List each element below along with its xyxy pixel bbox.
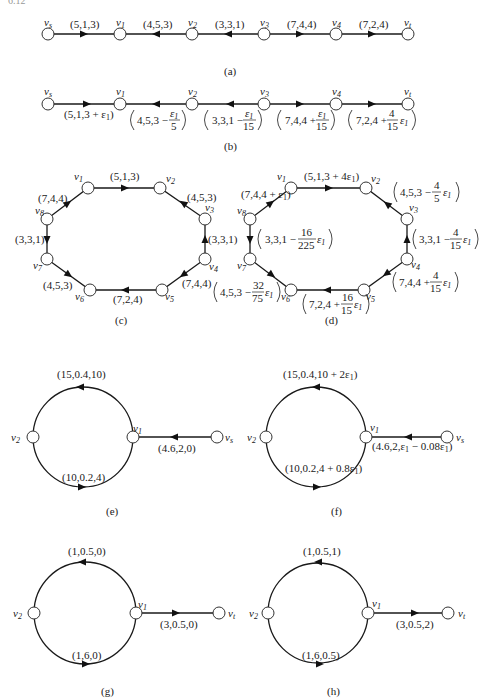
edge-label: (5,1,3) — [70, 18, 100, 31]
label-v1: v1 — [74, 170, 83, 184]
arrow-left-icon — [152, 31, 160, 38]
svg-text:ε1: ε1 — [170, 107, 178, 121]
edge-label: (7,4,4) — [38, 192, 68, 205]
label-v2: v2 — [11, 431, 20, 445]
svg-text:ε1: ε1 — [245, 107, 253, 121]
svg-text:ε1: ε1 — [463, 233, 471, 247]
label-v1: v1 — [133, 422, 142, 436]
arrow-right-icon — [316, 661, 324, 668]
svg-text:32: 32 — [253, 279, 264, 291]
arrow-right-icon — [368, 31, 376, 38]
edge-label: 7,4,4 + 4 15 ε1 — [393, 269, 458, 294]
label-v1: v1 — [116, 16, 125, 30]
label-v8: v8 — [35, 204, 44, 218]
arrow-right-icon — [82, 661, 90, 668]
svg-text:4,5,3 −: 4,5,3 − — [400, 186, 431, 198]
node-v1 — [82, 182, 94, 194]
label-vt: vt — [228, 607, 236, 621]
label-vs: vs — [44, 16, 52, 30]
svg-text:4: 4 — [433, 269, 439, 281]
label-v2: v2 — [13, 607, 22, 621]
arrow-right-icon — [325, 185, 333, 192]
svg-text:3,3,1 −: 3,3,1 − — [265, 233, 296, 245]
arrow-right-icon — [172, 610, 180, 617]
edge-label: 4,5,3 − 32 75 ε1 — [214, 279, 280, 304]
caption-c: (c) — [115, 314, 128, 327]
edge-label: (3,0.5,0) — [160, 618, 198, 631]
edge-label: (4.6,2,0) — [158, 442, 196, 455]
label-v1: v1 — [138, 598, 147, 612]
label-v1: v1 — [370, 421, 379, 435]
edge-label: (7,4,4 + ε1) — [241, 188, 291, 202]
label-v8: v8 — [237, 204, 246, 218]
svg-text:15: 15 — [341, 304, 353, 316]
node-v1 — [114, 98, 126, 110]
diagram-d: v1 v2 v3 v4 v5 v6 v7 v8 (5,1,3 + 4ε1) (7… — [214, 170, 478, 327]
caption-e: (e) — [106, 505, 119, 518]
arrow-left-icon — [152, 101, 160, 108]
label-v3: v3 — [260, 16, 269, 30]
edge-label: (10,0.2,4) — [62, 471, 105, 484]
node-v7 — [41, 253, 53, 265]
arrow-right-icon — [121, 185, 129, 192]
label-vt: vt — [404, 85, 412, 99]
edge-label: 7,4,4 + ε1 15 — [278, 107, 335, 132]
arrow-left-icon — [314, 559, 322, 566]
svg-text:15: 15 — [316, 120, 328, 132]
node-vt — [402, 98, 414, 110]
arrow-right-icon — [313, 484, 321, 491]
edge-label: (1,6,0) — [72, 649, 102, 662]
label-v1: v1 — [277, 170, 286, 184]
svg-text:ε1: ε1 — [400, 114, 408, 128]
arrow-right-icon — [80, 31, 88, 38]
svg-text:ε1: ε1 — [443, 186, 451, 200]
label-vt: vt — [458, 607, 466, 621]
edge-label: (5,1,3 + 4ε1) — [304, 170, 360, 184]
arrow-right-icon — [78, 484, 86, 491]
node-v2 — [154, 182, 166, 194]
svg-text:15: 15 — [387, 120, 399, 132]
label-vs: vs — [456, 431, 464, 445]
arrow-left-icon — [226, 101, 234, 108]
svg-text:225: 225 — [298, 239, 315, 251]
svg-text:15: 15 — [450, 239, 462, 251]
node-v4 — [330, 98, 342, 110]
label-v6: v6 — [75, 290, 84, 304]
caption-h: (h) — [327, 685, 340, 698]
label-v2: v2 — [188, 85, 197, 99]
caption-g: (g) — [101, 685, 114, 698]
arrow-icon — [381, 269, 392, 279]
svg-text:ε1: ε1 — [318, 107, 326, 121]
arrow-right-icon — [296, 101, 304, 108]
label-v2: v2 — [371, 172, 380, 186]
edge-label: (3,3,1) — [208, 233, 238, 246]
label-vs: vs — [44, 85, 52, 99]
svg-text:16: 16 — [301, 226, 313, 238]
edge-label: 3,3,1 − ε1 15 — [205, 107, 262, 132]
diagram-e: v2 v1 vs (15,0.4,10) (10,0.2,4) (4.6,2,0… — [11, 368, 233, 518]
arrow-left-icon — [76, 384, 84, 391]
svg-text:4: 4 — [389, 107, 395, 119]
node-vt — [442, 607, 454, 619]
arrow-left-icon — [170, 434, 178, 441]
svg-text:15: 15 — [430, 282, 442, 294]
label-v4: v4 — [411, 258, 420, 272]
svg-text:5: 5 — [434, 192, 440, 204]
node-v3 — [401, 213, 413, 225]
svg-text:5: 5 — [171, 120, 177, 132]
edge-label: (10,0.2,4 + 0.8ε1) — [285, 462, 363, 476]
corner-label: 6.12 — [8, 0, 26, 6]
edge-label: (3,0.5,2) — [396, 618, 434, 631]
edge-label: (7,2,4) — [113, 293, 143, 306]
label-v5: v5 — [165, 290, 174, 304]
node-v2 — [186, 98, 198, 110]
diagram-f: v2 v1 vs (15,0.4,10 + 2ε1) (10,0.2,4 + 0… — [247, 368, 464, 518]
svg-text:ε1: ε1 — [317, 233, 325, 247]
svg-text:15: 15 — [243, 120, 255, 132]
edge-label: (1,0.5,0) — [68, 545, 106, 558]
label-v3: v3 — [409, 201, 418, 215]
edge-label: (7,4,4) — [182, 277, 212, 290]
edge-label: 4,5,3 − 4 5 ε1 — [394, 179, 459, 204]
arrow-left-icon — [323, 287, 331, 294]
label-v4: v4 — [332, 16, 341, 30]
